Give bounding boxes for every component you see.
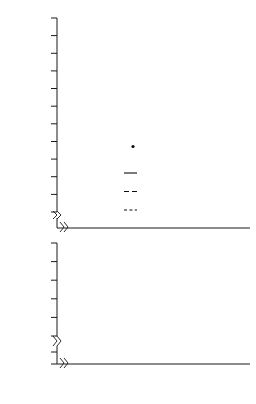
bottom-panel (0, 0, 250, 368)
bottom-panel-x-axis-break-icon (60, 358, 68, 368)
top-panel (0, 0, 250, 232)
bottom-panel-y-axis-break-icon (53, 336, 61, 346)
top-panel-x-axis-break-icon (60, 222, 68, 232)
legend (124, 145, 137, 210)
bottom-panel-y-ticks (51, 243, 57, 364)
cost-function-figure (0, 0, 256, 404)
legend-dot-marker (131, 145, 134, 148)
top-panel-y-ticks (51, 18, 57, 212)
chart-svg (0, 0, 256, 404)
